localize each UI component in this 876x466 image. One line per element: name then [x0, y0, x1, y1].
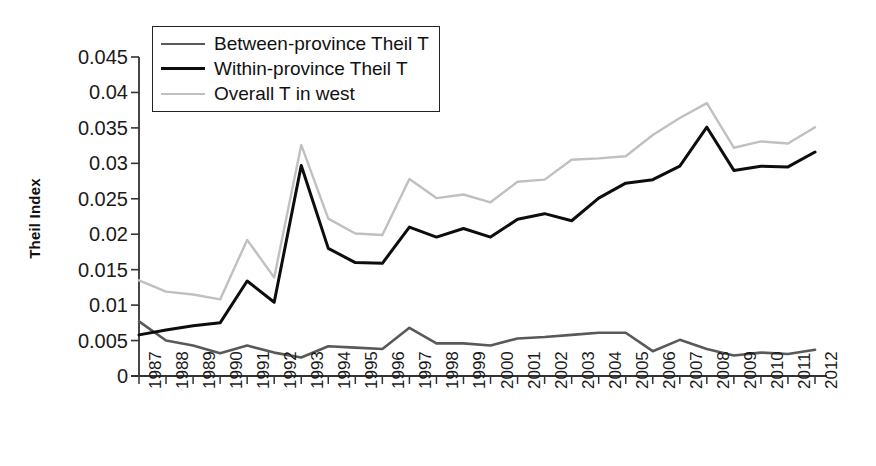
x-axis-tick-label: 2002 [552, 351, 572, 389]
x-axis-tick-label: 2006 [660, 351, 680, 389]
x-axis-tick-label: 2011 [795, 352, 815, 389]
x-axis-tick-label: 1988 [173, 351, 193, 389]
x-axis-tick-label: 1999 [470, 351, 490, 389]
x-axis-tick-label: 2008 [714, 351, 734, 389]
x-axis-tick-label: 2012 [822, 351, 842, 389]
legend-label-between-province: Between-province Theil T [214, 34, 429, 53]
x-axis-tick-label: 2001 [525, 351, 545, 389]
legend-swatch-within-province [161, 67, 205, 70]
legend-item-within-province: Within-province Theil T [161, 56, 429, 81]
x-axis-tick-label: 1990 [227, 351, 247, 389]
x-axis-tick-label: 1997 [416, 351, 436, 389]
x-axis-tick-label: 1994 [335, 351, 355, 389]
x-axis-tick-label: 2000 [498, 351, 518, 389]
chart-legend: Between-province Theil T Within-province… [152, 26, 440, 112]
legend-label-overall-west: Overall T in west [214, 84, 355, 103]
x-axis-tick-label: 1991 [254, 351, 274, 389]
x-axis-tick-label: 2010 [768, 351, 788, 389]
x-axis-tick-label: 1987 [146, 351, 166, 389]
x-axis-tick-label: 2003 [579, 351, 599, 389]
legend-swatch-between-province [161, 43, 205, 45]
theil-index-line-chart: Theil Index 00.0050.010.0150.020.0250.03… [0, 0, 876, 466]
legend-label-within-province: Within-province Theil T [214, 59, 408, 78]
x-axis-tick-label: 2007 [687, 351, 707, 389]
x-axis-tick-label: 2009 [741, 351, 761, 389]
x-axis-tick-label: 1992 [281, 351, 301, 389]
legend-item-overall-west: Overall T in west [161, 81, 429, 106]
legend-swatch-overall-west [161, 93, 205, 95]
x-axis-tick-label: 2005 [633, 351, 653, 389]
legend-item-between-province: Between-province Theil T [161, 31, 429, 56]
x-axis-tick-label: 1996 [389, 351, 409, 389]
x-axis-tick-label: 1995 [362, 351, 382, 389]
x-axis-tick-label: 2004 [606, 351, 626, 389]
x-axis-tick-label: 1989 [200, 351, 220, 389]
x-axis-tick-label: 1993 [308, 351, 328, 389]
x-axis-tick-label: 1998 [443, 351, 463, 389]
